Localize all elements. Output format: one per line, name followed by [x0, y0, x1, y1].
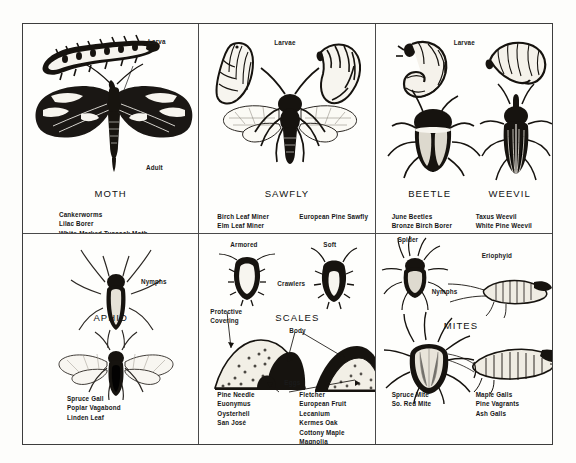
- label-eggs: Eggs: [284, 379, 300, 386]
- panel-title-aphid: APHID: [23, 312, 198, 323]
- panel-aphid: Nymphs APHID Spruce Gall Poplar Vagabond…: [23, 234, 199, 444]
- species-item: June Beetles: [392, 212, 452, 221]
- label-body: Body: [289, 327, 305, 334]
- moth-adult-art: [36, 64, 193, 172]
- species-item: Cankerworms: [59, 210, 148, 219]
- moth-illustration: [29, 28, 199, 188]
- beetle-grub-art: [396, 42, 446, 97]
- spider-mite-nymph-art: [382, 236, 448, 310]
- species-item: Cottony Maple: [299, 428, 346, 437]
- panel-title-mites: MITES: [444, 320, 479, 331]
- species-item: Ash Galls: [476, 409, 520, 418]
- panel-sawfly: Larvae SAWFLY Birch Leaf Miner Elm Leaf …: [199, 24, 375, 234]
- sawfly-larva-right-art: [317, 45, 361, 104]
- species-item: Spruce Mite: [392, 390, 432, 399]
- species-item: Pine Vagrants: [476, 399, 520, 408]
- eriophyid-nymph-art: [448, 281, 552, 318]
- species-list-scales-left: Pine Needle Euonymus Oysterhell San José: [217, 390, 254, 428]
- beetle-weevil-illustration: [382, 30, 552, 195]
- species-list-weevil: Taxus Weevil White Pine Weevil: [476, 212, 532, 231]
- panel-title-sawfly: SAWFLY: [199, 188, 374, 199]
- species-item: European Pine Sawfly: [299, 212, 368, 221]
- weevil-grub-art: [485, 42, 545, 84]
- armored-scale-crawler-art: [219, 254, 275, 306]
- label-larvae: Larvae: [454, 39, 475, 46]
- panel-grid: Larva Adult MOTH Cankerworms Lilac Borer…: [23, 24, 552, 444]
- panel-mites: Spider Eriophyid Nymphs MITES Spruce Mit…: [376, 234, 552, 444]
- species-list-beetle: June Beetles Bronze Birch Borer: [392, 212, 452, 231]
- species-list-aphid: Spruce Gall Poplar Vagabond Linden Leaf: [67, 394, 121, 422]
- species-item: Elm Leaf Miner: [217, 221, 269, 230]
- label-protective-line2: Covering: [210, 316, 242, 325]
- panel-beetle-weevil: Larvae BEETLE WEEVIL June Beetles Bronze…: [376, 24, 552, 234]
- species-item: Birch Leaf Miner: [217, 212, 269, 221]
- label-spider: Spider: [398, 236, 419, 243]
- species-list-sawfly-left: Birch Leaf Miner Elm Leaf Miner: [217, 212, 269, 231]
- sawfly-illustration: [205, 30, 375, 195]
- soft-scale-crawler-art: [311, 248, 357, 309]
- species-item: European Fruit: [299, 399, 346, 408]
- label-nymphs: Nymphs: [141, 278, 167, 285]
- panel-title-scales: SCALES: [275, 312, 319, 323]
- species-item: Pine Needle: [217, 390, 254, 399]
- species-list-mites-right: Maple Galls Pine Vagrants Ash Galls: [476, 390, 520, 418]
- panel-title-weevil: WEEVIL: [472, 188, 548, 199]
- aphid-nymph-art: [71, 250, 161, 348]
- species-list-moth: Cankerworms Lilac Borer White-Marked Tus…: [59, 210, 148, 234]
- species-item: Magnolia: [299, 437, 346, 444]
- label-armored: Armored: [230, 241, 257, 248]
- species-item: Linden Leaf: [67, 413, 121, 422]
- eriophyid-adult-art: [448, 349, 552, 394]
- label-nymphs: Nymphs: [432, 288, 458, 295]
- insect-chart-frame: Larva Adult MOTH Cankerworms Lilac Borer…: [22, 23, 553, 445]
- moth-larva-art: [42, 35, 159, 80]
- panel-title-beetle: BEETLE: [392, 188, 468, 199]
- aphid-adult-art: [59, 332, 173, 400]
- species-list-sawfly-right: European Pine Sawfly: [299, 212, 368, 221]
- species-item: Fletcher: [299, 390, 346, 399]
- panel-title-moth: MOTH: [23, 188, 198, 199]
- species-item: Oysterhell: [217, 409, 254, 418]
- label-crawlers: Crawlers: [277, 280, 305, 287]
- beetle-adult-art: [388, 90, 480, 178]
- species-item: Euonymus: [217, 399, 254, 408]
- species-item: Maple Galls: [476, 390, 520, 399]
- mites-leader-line: [448, 354, 474, 372]
- species-item: Poplar Vagabond: [67, 403, 121, 412]
- species-item: Kermes Oak: [299, 418, 346, 427]
- weevil-adult-art: [480, 84, 552, 180]
- species-item: Lilac Borer: [59, 219, 148, 228]
- species-item: Taxus Weevil: [476, 212, 532, 221]
- sawfly-larva-left-art: [217, 43, 254, 104]
- species-item: So. Red Mite: [392, 399, 432, 408]
- species-item: Spruce Gall: [67, 394, 121, 403]
- species-item: San José: [217, 418, 254, 427]
- species-item: Bronze Birch Borer: [392, 221, 452, 230]
- panel-scales: Armored Soft Crawlers Protective Coverin…: [199, 234, 375, 444]
- label-larvae: Larvae: [274, 39, 295, 46]
- species-list-mites-left: Spruce Mite So. Red Mite: [392, 390, 432, 409]
- soft-scale-section-art: [315, 346, 375, 391]
- label-protective-line1: Protective: [210, 307, 242, 316]
- label-adult: Adult: [146, 164, 163, 171]
- species-item: White Pine Weevil: [476, 221, 532, 230]
- label-soft: Soft: [323, 241, 336, 248]
- species-item: Lecanium: [299, 409, 346, 418]
- label-larva: Larva: [148, 38, 166, 45]
- label-eriophyid: Eriophyid: [482, 252, 512, 259]
- species-list-scales-right: Fletcher European Fruit Lecanium Kermes …: [299, 390, 346, 444]
- panel-moth: Larva Adult MOTH Cankerworms Lilac Borer…: [23, 24, 199, 234]
- label-protective-covering: Protective Covering: [210, 307, 242, 325]
